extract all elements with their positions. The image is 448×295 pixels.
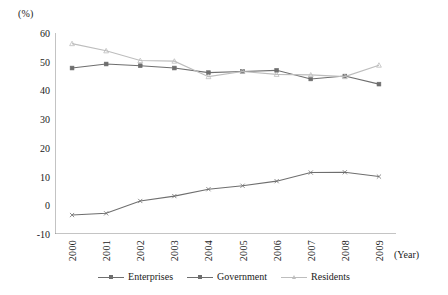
line-chart: (%) (Year) -100102030405060 200020012002…	[0, 0, 448, 295]
y-tick-label: 60	[40, 28, 50, 39]
legend-label: Government	[217, 272, 267, 282]
x-tick-label: 2009	[374, 240, 385, 261]
y-tick-label: 50	[40, 56, 50, 67]
y-tick-label: 30	[40, 114, 50, 125]
x-tick-label: 2008	[340, 240, 351, 261]
x-tick-label: 2004	[203, 240, 214, 261]
legend-item-residents[interactable]: Residents	[281, 272, 350, 282]
chart-legend: EnterprisesGovernmentResidents	[0, 272, 448, 282]
y-tick-label: 20	[40, 142, 50, 153]
y-axis-unit-label: (%)	[18, 8, 34, 19]
legend-swatch-x-icon	[98, 277, 124, 278]
legend-swatch-triangle-icon	[281, 277, 307, 278]
x-tick-label: 2001	[101, 240, 112, 261]
x-tick-label: 2002	[135, 240, 146, 261]
x-tick-label: 2000	[67, 240, 78, 261]
series-enterprises	[70, 170, 381, 217]
legend-swatch-square-icon	[187, 277, 213, 278]
x-tick-label: 2003	[169, 240, 180, 261]
series-residents	[70, 41, 382, 78]
legend-label: Residents	[311, 272, 350, 282]
legend-label: Enterprises	[128, 272, 173, 282]
y-tick-label: 10	[40, 171, 50, 182]
x-axis-unit-label: (Year)	[394, 249, 419, 260]
y-tick-label: 0	[45, 200, 50, 211]
x-tick-label: 2005	[238, 240, 249, 261]
plot-area	[55, 33, 396, 234]
legend-item-enterprises[interactable]: Enterprises	[98, 272, 173, 282]
x-tick-label: 2006	[272, 240, 283, 261]
legend-item-government[interactable]: Government	[187, 272, 267, 282]
y-tick-label: 40	[40, 85, 50, 96]
x-tick-label: 2007	[306, 240, 317, 261]
y-tick-label: -10	[37, 229, 50, 240]
y-axis-tick-labels: -100102030405060	[0, 33, 50, 234]
plot-svg	[55, 33, 396, 234]
